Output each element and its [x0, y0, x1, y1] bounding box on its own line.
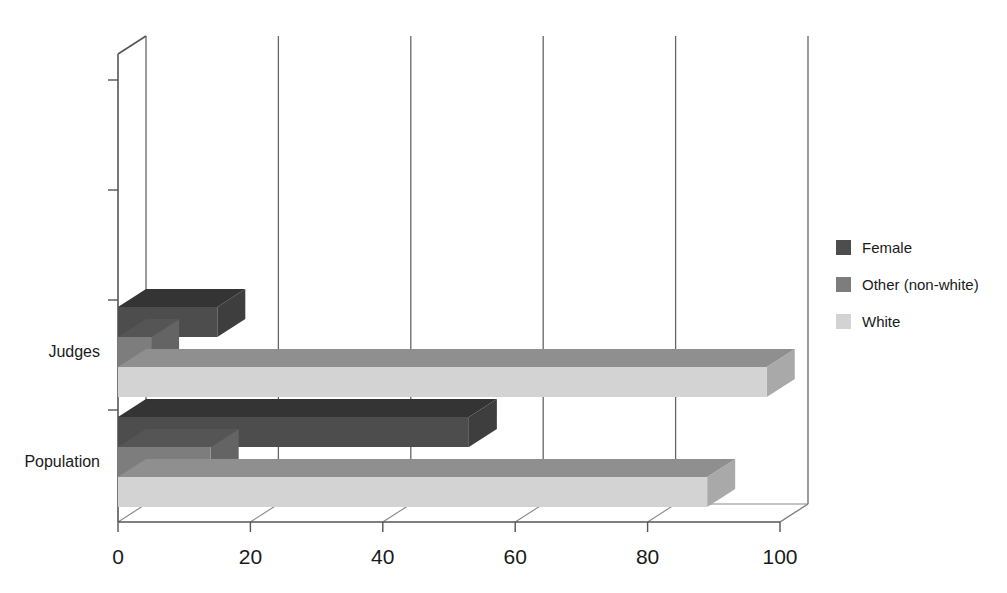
legend-label-white: White — [862, 313, 900, 330]
legend: FemaleOther (non-white)White — [836, 239, 979, 330]
legend-swatch-white — [836, 314, 851, 329]
legend-swatch-other-non-white- — [836, 277, 851, 292]
x-tick-label-100: 100 — [762, 545, 797, 568]
x-tick-label-40: 40 — [371, 545, 394, 568]
category-label-judges: Judges — [48, 343, 100, 360]
bars — [118, 289, 795, 507]
category-labels: JudgesPopulation — [24, 343, 100, 470]
x-tick-label-20: 20 — [239, 545, 262, 568]
category-label-population: Population — [24, 453, 100, 470]
legend-label-female: Female — [862, 239, 912, 256]
x-tick-label-60: 60 — [504, 545, 527, 568]
x-tick-label-0: 0 — [112, 545, 124, 568]
chart-page: 020406080100 JudgesPopulation FemaleOthe… — [0, 0, 1007, 593]
bar-population-white — [118, 459, 735, 507]
x-axis-ticks — [118, 522, 780, 532]
axis-depth-diagonal — [118, 36, 146, 54]
legend-label-other-non-white-: Other (non-white) — [862, 276, 979, 293]
bar-chart: 020406080100 JudgesPopulation FemaleOthe… — [0, 0, 1007, 593]
x-tick-label-80: 80 — [636, 545, 659, 568]
right-depth-edge — [780, 504, 808, 522]
bar-judges-white — [118, 349, 795, 397]
x-axis-tick-labels: 020406080100 — [112, 545, 797, 568]
legend-swatch-female — [836, 240, 851, 255]
